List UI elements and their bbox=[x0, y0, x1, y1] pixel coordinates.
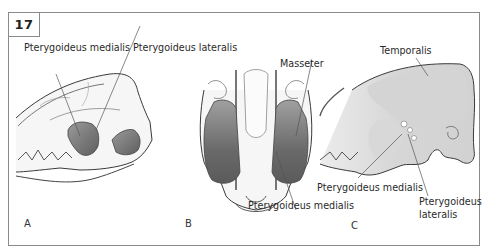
label-a-pterygoideus-lateralis: Pterygoideus lateralis bbox=[133, 42, 237, 53]
panel-letter-b: B bbox=[185, 218, 192, 229]
label-c-pterygoideus-medialis: Pterygoideus medialis bbox=[317, 182, 423, 193]
anatomy-illustration bbox=[0, 0, 487, 252]
label-c-pterygoideus-lateralis-line2: lateralis bbox=[419, 209, 457, 220]
masseter-muscle-b-left bbox=[204, 100, 240, 183]
label-b-pterygoideus-medialis: Pterygoideus medialis bbox=[248, 200, 354, 211]
label-a-pterygoideus-medialis: Pterygoideus medialis bbox=[24, 42, 130, 53]
label-c-pterygoideus-lateralis-line1: Pterygoideus bbox=[419, 196, 482, 207]
label-c-temporalis: Temporalis bbox=[380, 45, 432, 56]
panel-letter-a: A bbox=[24, 218, 31, 229]
panel-letter-c: C bbox=[351, 220, 358, 231]
masseter-muscle-b-right bbox=[272, 100, 308, 183]
label-b-masseter: Masseter bbox=[280, 58, 324, 69]
